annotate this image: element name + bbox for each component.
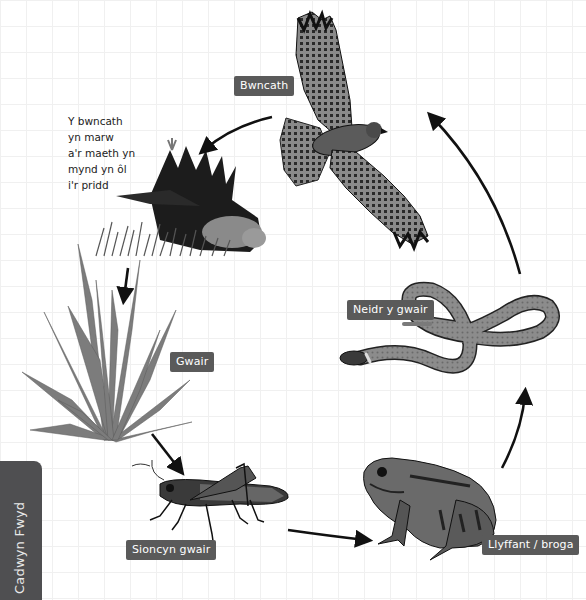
label-grass: Gwair: [170, 352, 214, 372]
arrow-grass-to-grasshopper: [152, 434, 180, 470]
side-tab[interactable]: Cadwyn Fwyd: [0, 461, 42, 600]
arrow-frog-to-snake: [502, 394, 525, 468]
note-line: i'r pridd: [68, 177, 135, 193]
label-snake: Neidr y gwair: [347, 300, 434, 320]
note-line: a'r maeth yn: [68, 145, 135, 161]
side-tab-label: Cadwyn Fwyd: [12, 502, 27, 594]
arrow-buzzard-to-dead: [204, 117, 272, 150]
label-grasshopper: Sioncyn gwair: [126, 540, 216, 560]
decomposition-note: Y bwncath yn marw a'r maeth yn mynd yn ô…: [68, 113, 135, 193]
food-chain-diagram: Bwncath Gwair Sioncyn gwair Llyffant / b…: [0, 0, 586, 600]
note-line: yn marw: [68, 129, 135, 145]
grass-illustration: [22, 244, 192, 442]
grasshopper-illustration: [132, 460, 288, 548]
arrow-grasshopper-to-frog: [288, 530, 366, 540]
label-frog: Llyffant / broga: [482, 535, 579, 555]
arrow-dead-to-grass: [124, 268, 128, 298]
label-buzzard: Bwncath: [234, 76, 294, 96]
note-line: Y bwncath: [68, 113, 135, 129]
frog-illustration: [364, 458, 496, 560]
buzzard-illustration: [280, 12, 428, 248]
arrow-snake-to-buzzard: [432, 117, 520, 274]
note-line: mynd yn ôl: [68, 161, 135, 177]
